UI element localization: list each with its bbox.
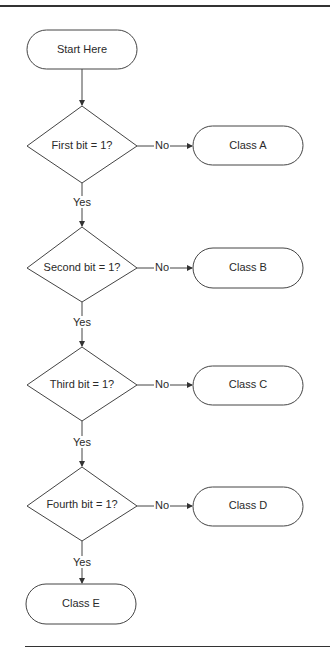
decision-3-yes-label: Yes <box>72 436 92 448</box>
decision-1-yes-label: Yes <box>72 196 92 208</box>
decision-4-no-label: No <box>154 499 170 511</box>
decision-2-label: Second bit = 1? <box>27 261 137 273</box>
class-b-label: Class B <box>193 261 303 273</box>
decision-3-label: Third bit = 1? <box>27 378 137 390</box>
class-c-label: Class C <box>193 378 303 390</box>
class-e-label: Class E <box>26 597 136 609</box>
class-d-label: Class D <box>193 499 303 511</box>
decision-3-no-label: No <box>154 378 170 390</box>
flowchart-shapes <box>0 0 330 655</box>
decision-4-label: Fourth bit = 1? <box>27 498 137 510</box>
decision-1-no-label: No <box>154 139 170 151</box>
decision-1-label: First bit = 1? <box>27 139 137 151</box>
start-label: Start Here <box>27 43 137 55</box>
decision-2-no-label: No <box>154 261 170 273</box>
decision-4-yes-label: Yes <box>72 556 92 568</box>
decision-2-yes-label: Yes <box>72 316 92 328</box>
class-a-label: Class A <box>193 139 303 151</box>
